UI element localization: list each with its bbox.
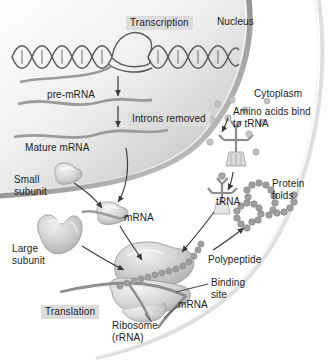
label-binding-site: Binding site (211, 277, 245, 300)
label-introns-removed: Introns removed (128, 112, 210, 126)
label-trna: tRNA (216, 196, 240, 208)
label-translation: Translation (41, 305, 99, 319)
label-amino-acids-bind: Amino acids bind to tRNA (233, 106, 311, 129)
label-transcription: Transcription (126, 16, 193, 30)
label-small-subunit: Small subunit (14, 174, 47, 197)
small-subunit-mrna-complex (82, 202, 128, 225)
label-mrna-lower: mRNA (178, 299, 208, 311)
label-polypeptide: Polypeptide (208, 254, 261, 266)
label-cytoplasm: Cytoplasm (254, 88, 302, 100)
label-large-subunit: Large subunit (12, 243, 45, 266)
label-ribosome-rrna: Ribosome (rRNA) (112, 320, 158, 343)
amino-acid-bind-arrow (222, 118, 228, 132)
label-mrna-middle: mRNA (124, 212, 154, 224)
label-pre-mrna: pre-mRNA (47, 89, 95, 101)
label-mature-mrna: Mature mRNA (25, 142, 89, 154)
label-protein-folds: Protein folds (272, 178, 304, 201)
protein-synthesis-diagram: Transcription Nucleus pre-mRNA Introns r… (0, 0, 332, 360)
trna-molecule-carrying (208, 173, 237, 214)
label-nucleus: Nucleus (217, 16, 254, 28)
